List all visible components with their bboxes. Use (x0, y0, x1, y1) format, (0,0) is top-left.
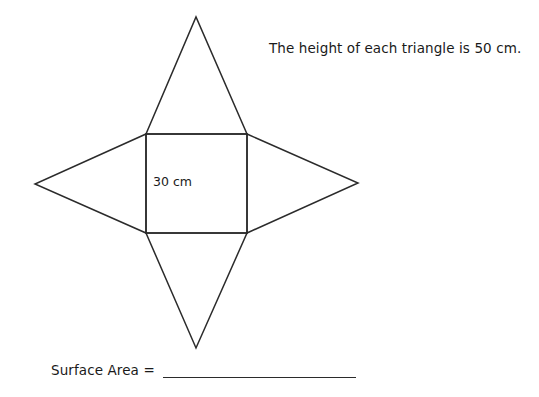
surface-area-answer-blank[interactable] (163, 365, 356, 378)
base-dimension-label: 30 cm (153, 174, 192, 189)
triangle-left (35, 134, 146, 233)
triangle-top (146, 17, 247, 134)
surface-area-label: Surface Area = (51, 362, 155, 378)
worksheet-page: The height of each triangle is 50 cm. 30… (0, 0, 539, 397)
square-pyramid-net-figure (0, 0, 539, 397)
prompt-text: The height of each triangle is 50 cm. (269, 40, 521, 56)
triangle-right (247, 134, 358, 233)
answer-row: Surface Area = (51, 362, 356, 378)
triangle-bottom (146, 233, 247, 348)
